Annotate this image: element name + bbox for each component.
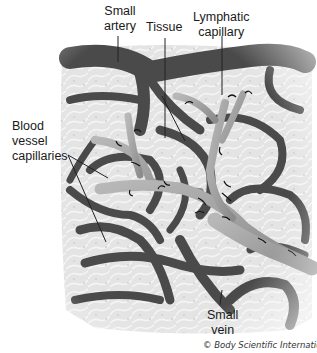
label-lymphatic-capillary: Lymphatic capillary (193, 10, 250, 40)
label-tissue-line1: Tissue (146, 20, 182, 35)
label-small-artery-line1: Small (104, 4, 136, 19)
label-lymphatic-capillary-line2: capillary (193, 25, 250, 40)
label-small-artery-line2: artery (104, 19, 136, 34)
label-blood-vessel-capillaries: Blood vessel capillaries (12, 119, 68, 164)
label-small-artery: Small artery (104, 4, 136, 34)
label-blood-vessel-capillaries-line2: vessel (12, 134, 68, 149)
lymphatic-diagram: Small artery Tissue Lymphatic capillary … (0, 0, 317, 353)
copyright-credit: © Body Scientific International (203, 340, 317, 350)
label-small-vein-line2: vein (207, 323, 238, 338)
label-small-vein-line1: Small (207, 308, 238, 323)
label-blood-vessel-capillaries-line3: capillaries (12, 149, 68, 164)
edge-fade (0, 0, 317, 353)
diagram-illustration (0, 0, 317, 353)
label-tissue: Tissue (146, 20, 182, 35)
label-blood-vessel-capillaries-line1: Blood (12, 119, 68, 134)
label-lymphatic-capillary-line1: Lymphatic (193, 10, 250, 25)
label-small-vein: Small vein (207, 308, 238, 338)
